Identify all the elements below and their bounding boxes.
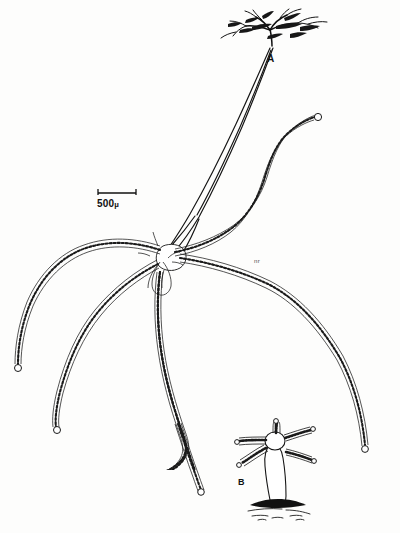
panel-label-a: A: [267, 53, 274, 64]
ophiuroid-illustration: [0, 0, 400, 533]
panel-label-b: B: [238, 477, 245, 487]
arm-left: [15, 239, 161, 371]
central-disc-group: [138, 232, 186, 295]
arm-lower-center: [100, 272, 189, 494]
figure-panel: A B nr 500µ: [0, 0, 400, 533]
scale-bar-label: 500µ: [97, 198, 119, 209]
scale-bar-unit: µ: [114, 200, 119, 209]
arm-upper-right: [175, 113, 322, 256]
inset-b-group: [235, 419, 317, 520]
arm-lower-center-correction: [60, 423, 210, 510]
arm-lower-left: [53, 260, 159, 434]
scale-bar: [98, 189, 136, 195]
annotation-nr: nr: [254, 258, 260, 264]
scale-bar-value: 500: [97, 198, 114, 209]
host-colony-group: [221, 9, 327, 46]
